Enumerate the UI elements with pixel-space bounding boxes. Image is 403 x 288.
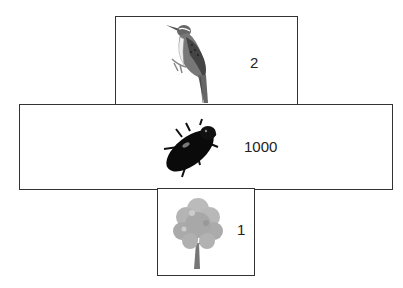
tier-top-bird: 2 [115,16,298,106]
tier-middle-beetle: 1000 [19,104,393,190]
beetle-icon [156,117,224,183]
bird-icon [164,19,224,105]
bird-count-label: 2 [250,54,258,71]
tier-bottom-tree: 1 [157,188,255,276]
beetle-count-label: 1000 [244,138,277,155]
tree-count-label: 1 [237,221,245,238]
tree-icon [170,195,226,271]
